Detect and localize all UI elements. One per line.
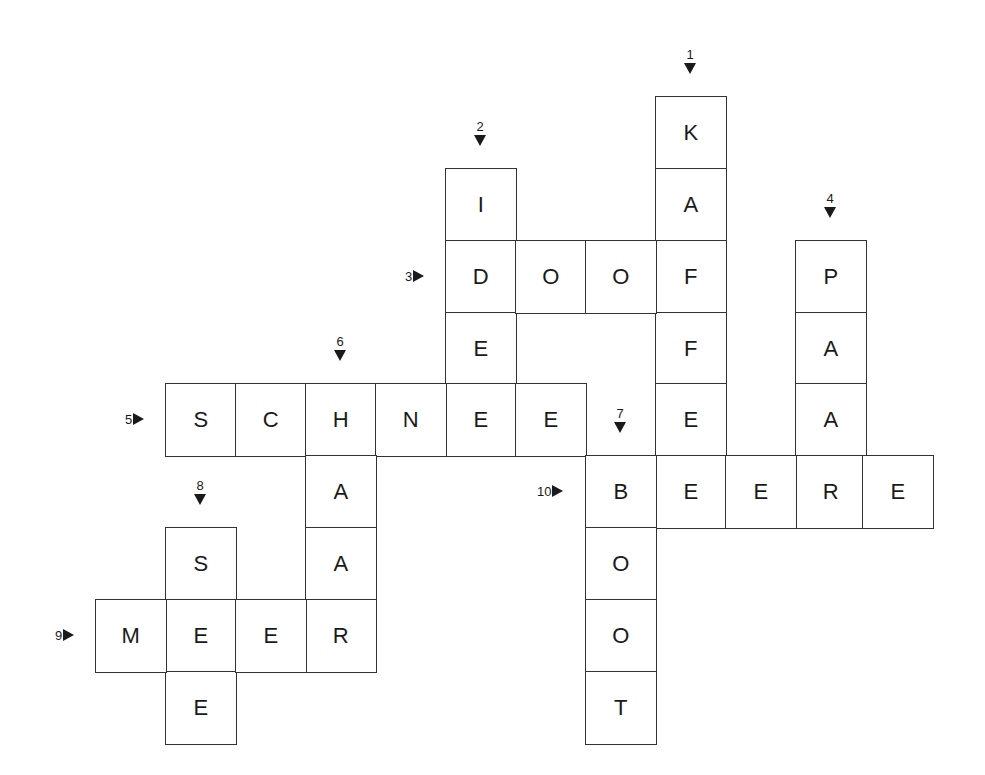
arrow-right-icon	[413, 270, 424, 282]
clue-marker-down-2: 2	[465, 120, 495, 146]
crossword-cell[interactable]: A	[795, 383, 867, 457]
cell-letter: R	[333, 623, 349, 649]
crossword-cell[interactable]: E	[655, 383, 727, 457]
crossword-cell[interactable]: P	[795, 240, 867, 314]
crossword-cell[interactable]: S	[165, 527, 237, 601]
crossword-cell[interactable]: E	[725, 455, 797, 529]
cell-letter: A	[333, 551, 348, 577]
crossword-cell[interactable]: E	[862, 455, 934, 529]
crossword-cell[interactable]: E	[515, 383, 587, 457]
crossword-cell[interactable]: E	[165, 599, 237, 673]
arrow-down-icon	[824, 207, 836, 218]
clue-marker-down-6: 6	[325, 335, 355, 361]
crossword-cell[interactable]: R	[795, 455, 867, 529]
cell-letter: E	[193, 695, 208, 721]
cell-letter: S	[193, 551, 208, 577]
clue-number: 10	[537, 484, 551, 499]
cell-letter: M	[122, 623, 140, 649]
cell-letter: A	[333, 479, 348, 505]
cell-letter: C	[263, 407, 279, 433]
cell-letter: O	[612, 264, 629, 290]
crossword-cell[interactable]: T	[585, 671, 657, 745]
crossword-cell[interactable]: B	[585, 455, 657, 529]
cell-letter: R	[823, 479, 839, 505]
crossword-cell[interactable]: E	[445, 312, 517, 386]
crossword-cell[interactable]: E	[655, 455, 727, 529]
cell-letter: P	[823, 264, 838, 290]
crossword-cell[interactable]: A	[305, 527, 377, 601]
clue-marker-across-9: 9	[55, 625, 74, 645]
cell-letter: A	[683, 192, 698, 218]
crossword-cell[interactable]: O	[515, 240, 587, 314]
cell-letter: O	[612, 551, 629, 577]
clue-number: 2	[465, 120, 495, 134]
crossword-cell[interactable]: I	[445, 168, 517, 242]
cell-letter: F	[684, 336, 697, 362]
clue-number: 6	[325, 335, 355, 349]
crossword-cell[interactable]: S	[165, 383, 237, 457]
arrow-down-icon	[614, 422, 626, 433]
clue-number: 4	[815, 192, 845, 206]
clue-number: 5	[125, 412, 132, 427]
crossword-cell[interactable]: R	[305, 599, 377, 673]
cell-letter: N	[403, 407, 419, 433]
cell-letter: A	[823, 336, 838, 362]
crossword-cell[interactable]: E	[445, 383, 517, 457]
clue-marker-down-8: 8	[185, 479, 215, 505]
crossword-cell[interactable]: F	[655, 312, 727, 386]
arrow-right-icon	[63, 629, 74, 641]
clue-marker-down-7: 7	[605, 407, 635, 433]
cell-letter: E	[543, 407, 558, 433]
arrow-down-icon	[684, 63, 696, 74]
cell-letter: E	[683, 407, 698, 433]
cell-letter: O	[542, 264, 559, 290]
arrow-right-icon	[552, 485, 563, 497]
cell-letter: T	[614, 695, 627, 721]
clue-number: 9	[55, 628, 62, 643]
clue-number: 8	[185, 479, 215, 493]
crossword-cell[interactable]: A	[655, 168, 727, 242]
cell-letter: H	[333, 407, 349, 433]
crossword-cell[interactable]: H	[305, 383, 377, 457]
crossword-cell[interactable]: N	[375, 383, 447, 457]
cell-letter: I	[478, 192, 484, 218]
cell-letter: S	[193, 407, 208, 433]
crossword-cell[interactable]: C	[235, 383, 307, 457]
clue-marker-down-4: 4	[815, 192, 845, 218]
clue-marker-across-3: 3	[405, 266, 424, 286]
cell-letter: O	[612, 623, 629, 649]
crossword-cell[interactable]: O	[585, 240, 657, 314]
arrow-down-icon	[474, 135, 486, 146]
cell-letter: B	[613, 479, 628, 505]
cell-letter: A	[823, 407, 838, 433]
crossword-cell[interactable]: D	[445, 240, 517, 314]
crossword-board: KAFFEE1IDEE2OO3PAAR4SCHNE5AAR6BOOT7SEE8M…	[0, 0, 985, 775]
crossword-cell[interactable]: A	[305, 455, 377, 529]
crossword-cell[interactable]: E	[165, 671, 237, 745]
cell-letter: D	[473, 264, 489, 290]
cell-letter: E	[753, 479, 768, 505]
crossword-cell[interactable]: A	[795, 312, 867, 386]
arrow-right-icon	[133, 413, 144, 425]
arrow-down-icon	[334, 350, 346, 361]
cell-letter: E	[263, 623, 278, 649]
clue-number: 1	[675, 48, 705, 62]
cell-letter: K	[683, 120, 698, 146]
crossword-cell[interactable]: F	[655, 240, 727, 314]
arrow-down-icon	[194, 494, 206, 505]
cell-letter: E	[193, 623, 208, 649]
clue-number: 7	[605, 407, 635, 421]
crossword-cell[interactable]: O	[585, 527, 657, 601]
crossword-cell[interactable]: M	[95, 599, 167, 673]
cell-letter: E	[890, 479, 905, 505]
cell-letter: E	[683, 479, 698, 505]
crossword-cell[interactable]: O	[585, 599, 657, 673]
clue-marker-across-10: 10	[537, 481, 563, 501]
clue-marker-down-1: 1	[675, 48, 705, 74]
cell-letter: E	[473, 336, 488, 362]
crossword-cell[interactable]: K	[655, 96, 727, 170]
clue-number: 3	[405, 269, 412, 284]
cell-letter: F	[684, 264, 697, 290]
clue-marker-across-5: 5	[125, 409, 144, 429]
crossword-cell[interactable]: E	[235, 599, 307, 673]
